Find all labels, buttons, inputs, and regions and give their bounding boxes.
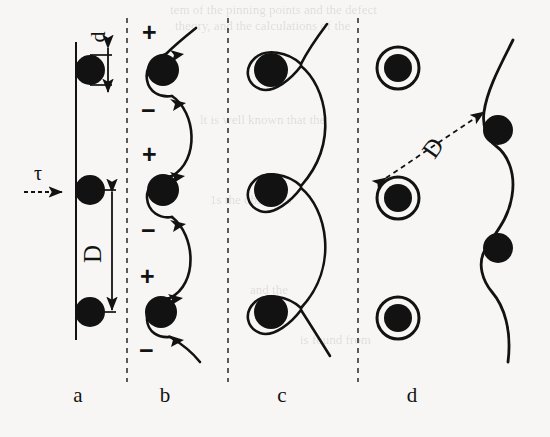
dislocation-segment [301, 24, 327, 64]
panel-label-a: a [63, 383, 93, 408]
particle [147, 54, 179, 86]
particle [483, 233, 513, 263]
panel-c [248, 24, 330, 356]
particle [384, 184, 412, 212]
particle [145, 296, 177, 328]
particle [147, 174, 179, 206]
panel-label-b: b [150, 383, 180, 408]
dislocation-segment [301, 188, 325, 308]
D-dimension-label: D [79, 245, 107, 263]
particle [384, 304, 412, 332]
looped-particles [377, 47, 419, 339]
negative-sign-label: − [141, 96, 156, 125]
particle [254, 295, 288, 329]
particle [75, 55, 105, 85]
positive-sign-label: + [142, 140, 157, 169]
dislocation-segment [170, 217, 191, 298]
dislocation-line [481, 40, 513, 362]
dislocation-segment [301, 66, 325, 186]
particle [254, 53, 288, 87]
positive-sign-label: + [140, 262, 155, 291]
particle [483, 115, 513, 145]
particle [254, 173, 288, 207]
particle [384, 54, 412, 82]
panel-b [145, 28, 200, 362]
panel-label-c: c [267, 383, 297, 408]
figure-diagram [0, 0, 550, 437]
d-dimension-label: d [85, 32, 111, 43]
dislocation-segment [166, 28, 196, 54]
positive-sign-label: + [142, 18, 157, 47]
figure-root: tem of the pinning points and the defect… [0, 0, 550, 437]
negative-sign-label: − [139, 336, 154, 365]
dislocation-segment [301, 310, 330, 356]
tau-label: τ [34, 162, 42, 185]
negative-sign-label: − [141, 216, 156, 245]
panel-a [24, 42, 116, 340]
panel-label-d: d [397, 383, 427, 408]
panel-d [377, 40, 513, 362]
